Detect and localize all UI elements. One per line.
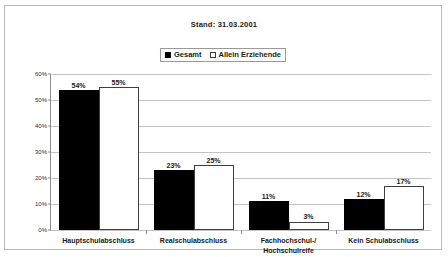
filled-square-icon	[165, 52, 171, 58]
y-tick-label: 10%	[35, 201, 47, 207]
x-tick-mark	[146, 230, 147, 234]
bar-allein-erziehende[interactable]: 25%	[194, 165, 234, 230]
bar-value-label: 23%	[166, 162, 180, 169]
chart-frame: Stand: 31.03.2001 Gesamt Allein Erziehen…	[4, 5, 442, 250]
category-label: Fachhochschul-/Hochschulreife	[241, 236, 336, 255]
legend-entry-allein-erziehende: Allein Erziehende	[209, 50, 281, 59]
bar-gesamt[interactable]: 11%	[249, 201, 289, 230]
bar-gesamt[interactable]: 54%	[59, 90, 99, 230]
x-tick-mark	[336, 230, 337, 234]
legend-label-allein-erziehende: Allein Erziehende	[218, 50, 281, 59]
y-tick-label: 0%	[38, 227, 47, 233]
bar-value-label: 17%	[396, 178, 410, 185]
bar-value-label: 3%	[303, 213, 313, 220]
y-tick-label: 60%	[35, 71, 47, 77]
bar-gesamt[interactable]: 23%	[154, 170, 194, 230]
category-label: Hauptschulabschluss	[51, 236, 146, 246]
category-label: Realschulabschluss	[146, 236, 241, 246]
bar-group: 12%17%Kein Schulabschluss	[336, 74, 431, 230]
category-label: Kein Schulabschluss	[336, 236, 431, 246]
bar-allein-erziehende[interactable]: 3%	[289, 222, 329, 230]
bar-group: 23%25%Realschulabschluss	[146, 74, 241, 230]
category-label-line: Kein Schulabschluss	[336, 236, 431, 246]
y-tick-label: 50%	[35, 97, 47, 103]
plot-area: 0%10%20%30%40%50%60% 54%55%Hauptschulabs…	[51, 74, 431, 230]
bar-group: 11%3%Fachhochschul-/Hochschulreife	[241, 74, 336, 230]
category-label-line: Fachhochschul-/	[241, 236, 336, 246]
y-tick-label: 40%	[35, 123, 47, 129]
category-label-line: Hochschulreife	[241, 246, 336, 256]
category-label-line: Hauptschulabschluss	[51, 236, 146, 246]
legend-entry-gesamt: Gesamt	[165, 50, 202, 59]
bar-value-label: 11%	[262, 193, 276, 200]
category-label-line: Realschulabschluss	[146, 236, 241, 246]
bar-allein-erziehende[interactable]: 55%	[99, 87, 139, 230]
chart-legend: Gesamt Allein Erziehende	[160, 48, 286, 62]
bar-value-label: 12%	[356, 191, 370, 198]
y-tick-label: 30%	[35, 149, 47, 155]
legend-label-gesamt: Gesamt	[174, 50, 202, 59]
hollow-square-icon	[209, 52, 215, 58]
bar-value-label: 55%	[111, 79, 125, 86]
y-tick-label: 20%	[35, 175, 47, 181]
bar-allein-erziehende[interactable]: 17%	[384, 186, 424, 230]
x-tick-mark	[241, 230, 242, 234]
bar-gesamt[interactable]: 12%	[344, 199, 384, 230]
bar-value-label: 25%	[206, 157, 220, 164]
bar-value-label: 54%	[71, 82, 85, 89]
bar-group: 54%55%Hauptschulabschluss	[51, 74, 146, 230]
chart-title: Stand: 31.03.2001	[5, 20, 443, 29]
